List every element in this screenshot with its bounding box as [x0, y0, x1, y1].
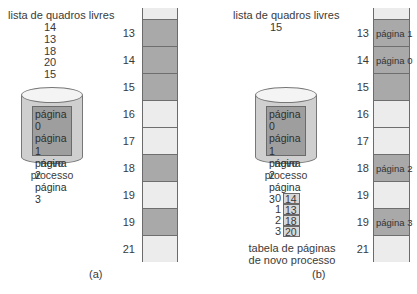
frame-number: 18 — [117, 162, 135, 174]
page-table-label-line1: tabela de páginas — [242, 242, 342, 254]
page-index: 3 — [271, 225, 281, 237]
memory-frame: página 0 — [374, 46, 409, 73]
page-item: página 1 — [35, 132, 69, 156]
frame-number: 19 — [117, 189, 135, 201]
page-item: página 0 — [35, 108, 69, 132]
page-table-label-line2: de novo processo — [242, 254, 342, 266]
frame-number: 16 — [117, 108, 135, 120]
frame-number: 16 — [351, 108, 369, 120]
memory-frame — [143, 235, 177, 262]
caption-a: (a) — [89, 268, 102, 280]
memory-frame — [143, 208, 177, 235]
frame-number: 18 — [351, 162, 369, 174]
page-table-row: 3 20 — [271, 225, 300, 237]
memory-frame — [143, 100, 177, 127]
frame-number: 13 — [351, 27, 369, 39]
process-pages: página 0 página 1 página 2 página 3 — [266, 106, 306, 156]
free-frame-list: 15 — [261, 22, 291, 34]
free-list-title: lista de quadros livres — [8, 9, 94, 21]
process-label-line2: processo — [255, 169, 317, 181]
free-frame-item: 13 — [35, 34, 65, 46]
process-label: novo processo — [255, 157, 317, 181]
frame-number: 14 — [351, 54, 369, 66]
frame-entry: 20 — [283, 226, 300, 237]
page-item: página 3 — [35, 181, 69, 205]
memory-frame-top — [143, 8, 177, 19]
memory-frame — [143, 73, 177, 100]
memory-frame — [374, 100, 409, 127]
memory-frame — [374, 181, 409, 208]
frame-number: 15 — [351, 81, 369, 93]
frame-number: 19 — [351, 189, 369, 201]
page-table-label: tabela de páginas de novo processo — [242, 242, 342, 266]
frame-number: 21 — [117, 243, 135, 255]
memory-frame — [143, 19, 177, 46]
memory-frame: página 1 — [374, 19, 409, 46]
memory-frame — [143, 154, 177, 181]
frame-number: 19 — [117, 216, 135, 228]
free-frame-list: 14 13 18 20 15 — [35, 22, 65, 81]
free-list-title: lista de quadros livres — [233, 9, 319, 21]
memory-frame: página 2 — [374, 154, 409, 181]
frame-number: 17 — [117, 135, 135, 147]
frame-number: 17 — [351, 135, 369, 147]
frame-number: 15 — [117, 81, 135, 93]
process-label-line1: novo — [21, 157, 83, 169]
memory-frame — [374, 235, 409, 262]
page-item: página 1 — [269, 132, 303, 156]
disk-top — [21, 87, 83, 103]
memory-frame-top — [374, 8, 409, 19]
frame-entry: 14 — [283, 193, 300, 204]
free-frame-item: 15 — [261, 22, 291, 34]
memory-frame: página 3 — [374, 208, 409, 235]
frame-entry: 13 — [283, 204, 300, 215]
frame-number: 13 — [117, 27, 135, 39]
frame-entry: 18 — [283, 215, 300, 226]
caption-b: (b) — [312, 268, 325, 280]
process-label-line2: processo — [21, 169, 83, 181]
memory-frame — [374, 73, 409, 100]
frame-number: 19 — [351, 216, 369, 228]
memory-frame — [143, 181, 177, 208]
physical-memory-column: página 1 página 0 página 2 página 3 — [373, 8, 410, 262]
disk-top — [255, 87, 317, 103]
physical-memory-column — [142, 8, 178, 262]
frame-number: 14 — [117, 54, 135, 66]
memory-frame — [143, 46, 177, 73]
page-item: página 0 — [269, 108, 303, 132]
process-label: novo processo — [21, 157, 83, 181]
memory-frame — [143, 127, 177, 154]
memory-frame — [374, 127, 409, 154]
free-frame-item: 15 — [35, 69, 65, 81]
frame-number: 21 — [351, 243, 369, 255]
process-label-line1: novo — [255, 157, 317, 169]
process-pages: página 0 página 1 página 2 página 3 — [32, 106, 72, 156]
